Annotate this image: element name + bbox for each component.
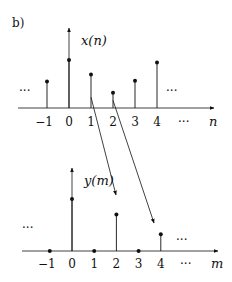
- tick-label: 1: [90, 257, 98, 271]
- y-sample-point: [137, 249, 141, 253]
- panel-label: b): [12, 16, 24, 30]
- x-sample-point: [89, 72, 93, 76]
- tick-label: −1: [35, 115, 53, 129]
- x-sample-point: [111, 91, 115, 95]
- ellipsis-right: ···: [166, 84, 177, 98]
- y-sample-point: [114, 213, 118, 217]
- y-sample-point: [70, 197, 74, 201]
- x-sample-point: [133, 79, 137, 83]
- ellipsis-right: ···: [176, 233, 187, 247]
- x-of-n-title: x(n): [81, 33, 107, 48]
- tick-label: 0: [65, 115, 73, 129]
- n-axis-label: n: [209, 114, 217, 129]
- tick-label: 4: [157, 257, 165, 271]
- plot-y-of-m: y(m) ··· ··· ··· m −101234: [22, 168, 223, 271]
- upsampling-diagram: b) x(n) ··· ··· ··· n −101234 y(m) ··· ·…: [0, 0, 232, 282]
- tick-label: 2: [109, 115, 117, 129]
- tick-label: 3: [135, 257, 143, 271]
- x-sample-point: [45, 80, 49, 84]
- ellipsis-left: ···: [19, 84, 30, 98]
- y-sample-point: [48, 249, 52, 253]
- tick-label: 1: [87, 115, 95, 129]
- mapping-arrows: [91, 97, 154, 223]
- y-sample-point: [159, 232, 163, 236]
- m-axis-label: m: [211, 256, 223, 271]
- x-sample-point: [67, 58, 71, 62]
- ellipsis-left: ···: [22, 221, 33, 235]
- tick-label: 3: [131, 115, 139, 129]
- y-of-m-title: y(m): [83, 173, 114, 188]
- tick-label: 2: [113, 257, 121, 271]
- ellipsis-axis: ···: [178, 115, 189, 129]
- tick-label: −1: [38, 257, 56, 271]
- ellipsis-axis: ···: [180, 257, 191, 271]
- tick-label: 4: [153, 115, 161, 129]
- y-sample-point: [92, 249, 96, 253]
- tick-label: 0: [68, 257, 76, 271]
- x-sample-point: [155, 60, 159, 64]
